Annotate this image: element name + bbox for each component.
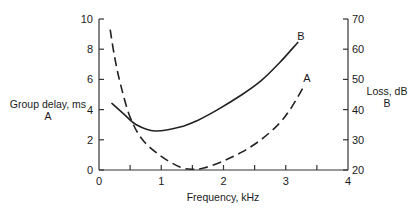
y-left-tick-label: 8 (87, 43, 93, 55)
y-right-tick-label: 50 (352, 73, 364, 85)
y-left-tick-label: 10 (81, 13, 93, 25)
x-tick-label: 3 (283, 175, 289, 187)
curve-b (112, 42, 299, 131)
y-left-tick-label: 2 (87, 134, 93, 146)
y-right-tick-label: 20 (352, 164, 364, 176)
x-axis-title: Frequency, kHz (187, 191, 260, 203)
y-right-tick-label: 40 (352, 104, 364, 116)
y-right-tick-label: 70 (352, 13, 364, 25)
y-right-axis-title-line1: Loss, dB (367, 85, 408, 97)
y-left-tick-label: 6 (87, 73, 93, 85)
x-tick-label: 1 (158, 175, 164, 187)
x-tick-label: 4 (345, 175, 351, 187)
y-right-axis-title-line2: B (383, 97, 390, 109)
curve-label-b: B (297, 30, 304, 42)
y-left-tick-label: 0 (87, 164, 93, 176)
y-left-tick-label: 4 (87, 104, 93, 116)
axes: 024681020304050607001234 (81, 13, 365, 187)
curve-label-a: A (303, 72, 311, 84)
curves (110, 30, 304, 170)
curve-a (110, 30, 304, 170)
y-left-axis-title-line1: Group delay, ms (10, 98, 86, 110)
x-tick-label: 0 (96, 175, 102, 187)
y-left-axis-title-line2: A (44, 110, 51, 122)
x-tick-label: 2 (220, 175, 226, 187)
y-right-tick-label: 30 (352, 134, 364, 146)
chart: 024681020304050607001234 Group delay, ms… (0, 0, 415, 212)
y-right-tick-label: 60 (352, 43, 364, 55)
